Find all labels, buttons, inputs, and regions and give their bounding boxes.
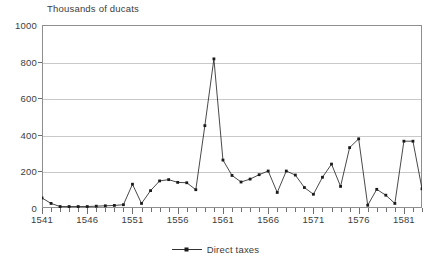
x-tick-1582	[413, 208, 414, 212]
series-direct-taxes	[42, 25, 422, 208]
x-tick-1568	[286, 208, 287, 212]
x-tick-1560	[214, 208, 215, 212]
x-tick-1564	[250, 208, 251, 212]
x-tick-label-1581: 1581	[393, 214, 415, 225]
x-tick-1583	[422, 208, 423, 212]
x-tick-1580	[395, 208, 396, 212]
y-axis: 02004006008001000	[0, 0, 42, 240]
chart-title: Thousands of ducats	[47, 3, 139, 14]
x-tick-1575	[350, 208, 351, 212]
x-tick-1574	[341, 208, 342, 212]
x-tick-1549	[114, 208, 115, 212]
x-tick-label-1546: 1546	[76, 214, 98, 225]
y-tick-label-0: 0	[32, 203, 37, 214]
y-tick-label-1000: 1000	[15, 20, 37, 31]
legend-label-direct-taxes: Direct taxes	[207, 244, 260, 255]
x-tick-1542	[51, 208, 52, 212]
x-tick-1558	[196, 208, 197, 212]
y-tick-label-200: 200	[21, 166, 37, 177]
y-tick-label-800: 800	[21, 56, 37, 67]
x-tick-1565	[259, 208, 260, 212]
x-tick-1562	[232, 208, 233, 212]
x-tick-1553	[151, 208, 152, 212]
x-tick-1578	[377, 208, 378, 212]
x-tick-1545	[78, 208, 79, 212]
x-tick-1572	[322, 208, 323, 212]
x-tick-1550	[123, 208, 124, 212]
x-tick-1548	[105, 208, 106, 212]
x-tick-1547	[96, 208, 97, 212]
legend-line-marker-icon	[172, 245, 202, 254]
x-tick-1563	[241, 208, 242, 212]
x-tick-label-1566: 1566	[257, 214, 279, 225]
chart-legend: Direct taxes	[0, 244, 431, 255]
x-tick-1543	[60, 208, 61, 212]
x-tick-label-1551: 1551	[122, 214, 144, 225]
x-tick-label-1571: 1571	[302, 214, 324, 225]
x-tick-1579	[386, 208, 387, 212]
x-tick-label-1576: 1576	[348, 214, 370, 225]
x-tick-1567	[277, 208, 278, 212]
x-axis: 154115461551155615611566157115761581	[0, 214, 431, 230]
y-tick-label-400: 400	[21, 129, 37, 140]
chart-container: Thousands of ducats 02004006008001000 15…	[0, 0, 431, 269]
x-tick-1552	[142, 208, 143, 212]
x-tick-1554	[160, 208, 161, 212]
x-tick-label-1561: 1561	[212, 214, 234, 225]
x-tick-1544	[69, 208, 70, 212]
x-tick-1577	[368, 208, 369, 212]
x-tick-label-1556: 1556	[167, 214, 189, 225]
x-tick-1555	[169, 208, 170, 212]
y-tick-label-600: 600	[21, 93, 37, 104]
x-tick-1573	[332, 208, 333, 212]
x-tick-label-1541: 1541	[31, 214, 53, 225]
x-tick-1557	[187, 208, 188, 212]
x-tick-1559	[205, 208, 206, 212]
x-tick-1570	[304, 208, 305, 212]
x-tick-1569	[295, 208, 296, 212]
